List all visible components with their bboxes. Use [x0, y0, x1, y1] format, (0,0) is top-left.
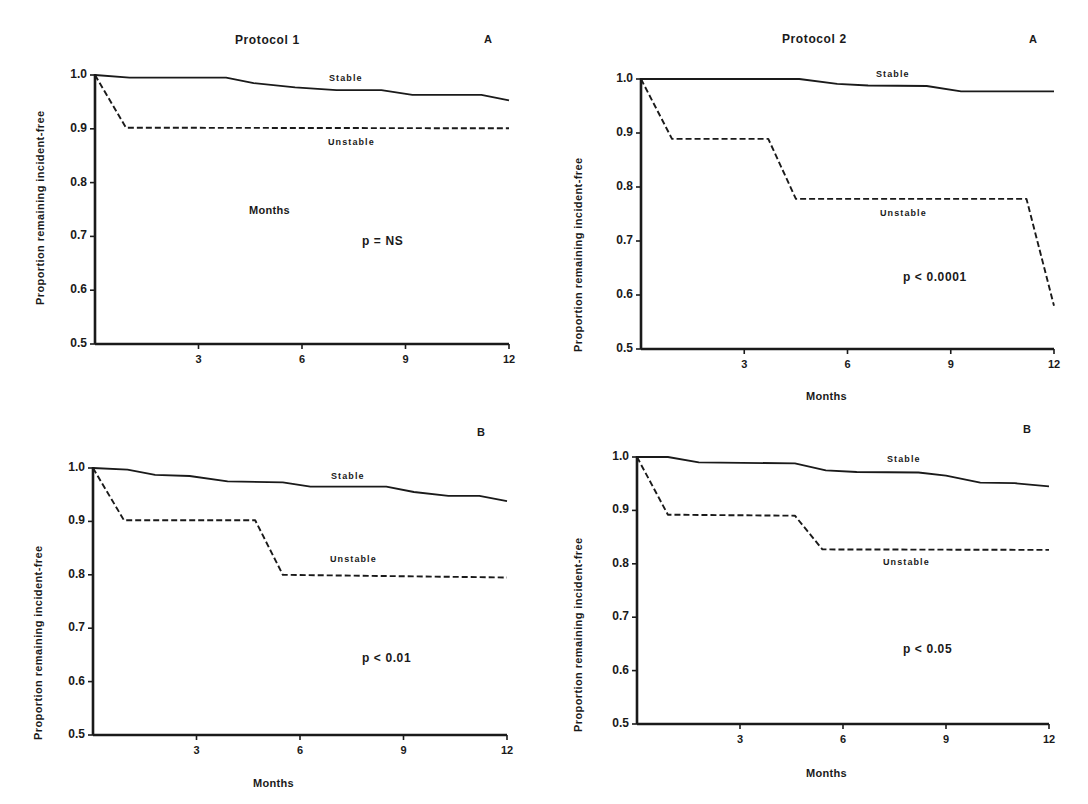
- x-tick-label: 3: [728, 733, 752, 745]
- y-tick-label: 0.5: [599, 716, 629, 730]
- y-tick-label: 1.0: [599, 449, 629, 463]
- y-tick-label: 0.9: [599, 502, 629, 516]
- plot-area: [0, 0, 1088, 804]
- y-tick-label: 0.7: [599, 609, 629, 623]
- y-tick-label: 0.8: [599, 556, 629, 570]
- x-tick-label: 9: [934, 733, 958, 745]
- chart-protocol-2-b: B Proportion remaining incident-free Mon…: [0, 0, 1088, 804]
- series-line-stable: [637, 457, 1049, 486]
- x-tick-label: 12: [1037, 733, 1061, 745]
- x-tick-label: 6: [831, 733, 855, 745]
- y-tick-label: 0.6: [599, 663, 629, 677]
